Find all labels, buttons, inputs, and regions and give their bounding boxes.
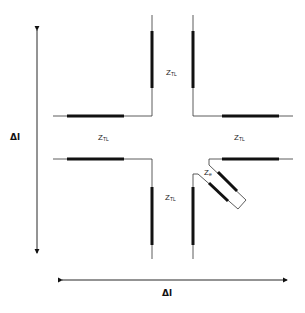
vertical-dimension-label: Δl [10,132,20,142]
right-lower-conductor [209,159,293,209]
top-right-conductor [193,15,293,116]
top-left-conductor [53,15,152,116]
bottom-left-conductor [53,159,152,259]
label-left-ztl: ZTL [98,133,109,142]
label-bottom-ztl: ZTL [165,193,176,202]
horizontal-dimension-label: Δl [162,288,172,298]
label-top-ztl: ZTL [166,68,177,77]
label-element-ze: Ze [204,168,212,177]
junction-diagram [0,0,305,313]
label-right-ztl: ZTL [234,133,245,142]
